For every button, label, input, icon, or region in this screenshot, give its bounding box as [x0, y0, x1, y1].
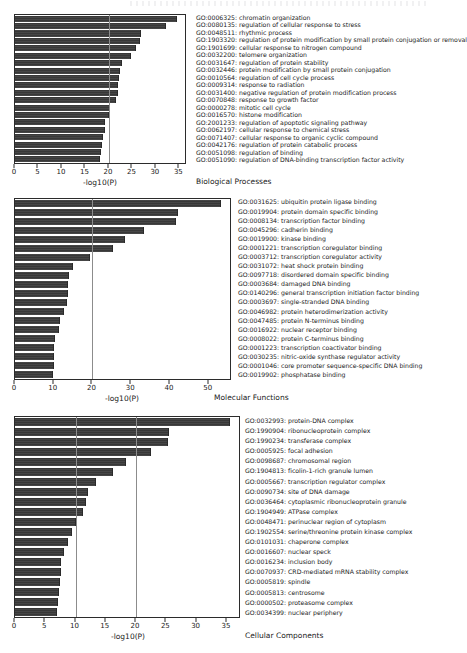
go-term-label: GO:0048471:perinuclear region of cytopla… [245, 517, 443, 527]
gridline [136, 417, 137, 617]
bar-row [15, 497, 239, 507]
go-term-id: GO:0062197: [196, 127, 237, 133]
go-term-name: mitotic cell cycle [239, 105, 291, 111]
bar [15, 112, 109, 118]
bar [15, 558, 61, 566]
go-term-label: GO:0062197:cellular response to chemical… [196, 127, 443, 135]
bar [15, 548, 64, 556]
go-term-id: GO:1903320: [196, 37, 237, 43]
go-term-id: GO:0048471: [245, 519, 286, 525]
bar-row [15, 96, 185, 103]
go-term-label: GO:0034399:nuclear periphery [245, 608, 443, 618]
bar [15, 528, 72, 536]
bar-row [15, 89, 185, 96]
bar-row [15, 607, 239, 617]
go-term-label: GO:0016607:nuclear speck [245, 547, 443, 557]
go-term-id: GO:0016234: [245, 559, 286, 565]
bar-row [15, 352, 230, 361]
bar [15, 281, 68, 288]
go-term-id: GO:0101031: [245, 539, 286, 545]
bar [15, 326, 59, 333]
bar-row [15, 567, 239, 577]
bar [15, 218, 176, 225]
bar-row [15, 477, 239, 487]
bar [15, 344, 54, 351]
go-term-name: transcription regulator complex [288, 479, 385, 485]
go-term-name: heat shock protein binding [281, 263, 363, 269]
go-term-id: GO:0008134: [238, 218, 279, 224]
gridline [109, 15, 110, 163]
go-term-label: GO:0046982:protein heterodimerization ac… [238, 307, 443, 316]
bar-row [15, 587, 239, 597]
axis-tick-label: 25 [161, 622, 170, 631]
bar [15, 290, 68, 297]
go-term-id: GO:0016922: [238, 327, 279, 333]
go-term-id: GO:0003684: [238, 281, 279, 287]
go-term-id: GO:0140296: [238, 290, 279, 296]
go-term-label: GO:0051090:regulation of DNA-binding tra… [196, 157, 443, 165]
go-term-label: GO:1990904:ribonucleoprotein complex [245, 426, 443, 436]
go-term-label: GO:0030235:nitric-oxide synthase regulat… [238, 353, 443, 362]
go-term-id: GO:0019904: [238, 209, 279, 215]
bar [15, 68, 120, 74]
bar-row [15, 507, 239, 517]
bar-row [15, 74, 185, 81]
axis-tick-label: 30 [191, 622, 200, 631]
go-term-id: GO:0016570: [196, 112, 237, 118]
axis-tick-label: 30 [150, 168, 159, 177]
bar [15, 236, 125, 243]
go-term-label: GO:0001046:core promoter sequence-specif… [238, 362, 443, 371]
go-term-name: regulation of protein stability [239, 60, 328, 66]
go-term-id: GO:0031400: [196, 90, 237, 96]
bar-row [15, 487, 239, 497]
go-term-label: GO:0001223:transcription coactivator bin… [238, 344, 443, 353]
go-term-name: spindle [288, 579, 310, 585]
axis-tick-label: 20 [103, 168, 112, 177]
bar [15, 418, 230, 426]
term-list-bp: GO:0006325:chromatin organizationGO:0080… [196, 14, 443, 164]
go-term-id: GO:0001221: [238, 245, 279, 251]
go-term-name: regulation of protein modification by sm… [239, 37, 467, 43]
go-term-label: GO:0005925:focal adhesion [245, 446, 443, 456]
bar-row [15, 253, 230, 262]
go-term-name: protein modification by small protein co… [239, 67, 391, 73]
go-term-id: GO:0034399: [245, 610, 286, 616]
go-term-id: GO:1904813: [245, 468, 286, 474]
bar-row [15, 370, 230, 379]
bar-row [15, 217, 230, 226]
bar-row [15, 82, 185, 89]
bar [15, 245, 113, 252]
bar [15, 149, 101, 155]
bar [15, 578, 60, 586]
bar [15, 335, 55, 342]
go-term-id: GO:0016607: [245, 549, 286, 555]
x-axis-label-bp: -log10(P) [83, 178, 117, 187]
go-term-label: GO:0016234:inclusion body [245, 557, 443, 567]
bar [15, 127, 105, 133]
bar-row [15, 271, 230, 280]
go-term-name: nitric-oxide synthase regulator activity [281, 354, 400, 360]
go-term-label: GO:0045296:cadherin binding [238, 225, 443, 234]
bar [15, 75, 119, 81]
go-term-id: GO:0000502: [245, 600, 286, 606]
go-term-id: GO:0019900: [238, 236, 279, 242]
bar-row [15, 235, 230, 244]
axis-tick-label: 10 [48, 384, 57, 393]
go-term-label: GO:0080135:regulation of cellular respon… [196, 22, 443, 30]
bar [15, 227, 144, 234]
bar-row [15, 298, 230, 307]
go-term-name: CRD-mediated mRNA stability complex [288, 569, 408, 575]
go-term-name: ubiquitin protein ligase binding [281, 199, 377, 205]
bar [15, 488, 88, 496]
axis-tick-label: 40 [164, 384, 173, 393]
go-term-id: GO:0001223: [238, 345, 279, 351]
bar-row [15, 134, 185, 141]
bar [15, 508, 83, 516]
bar [15, 272, 69, 279]
go-term-name: rhythmic process [239, 30, 292, 36]
bar-row [15, 59, 185, 66]
bar [15, 134, 103, 140]
bar [15, 468, 113, 476]
bar [15, 588, 59, 596]
go-term-label: GO:0070848:response to growth factor [196, 97, 443, 105]
